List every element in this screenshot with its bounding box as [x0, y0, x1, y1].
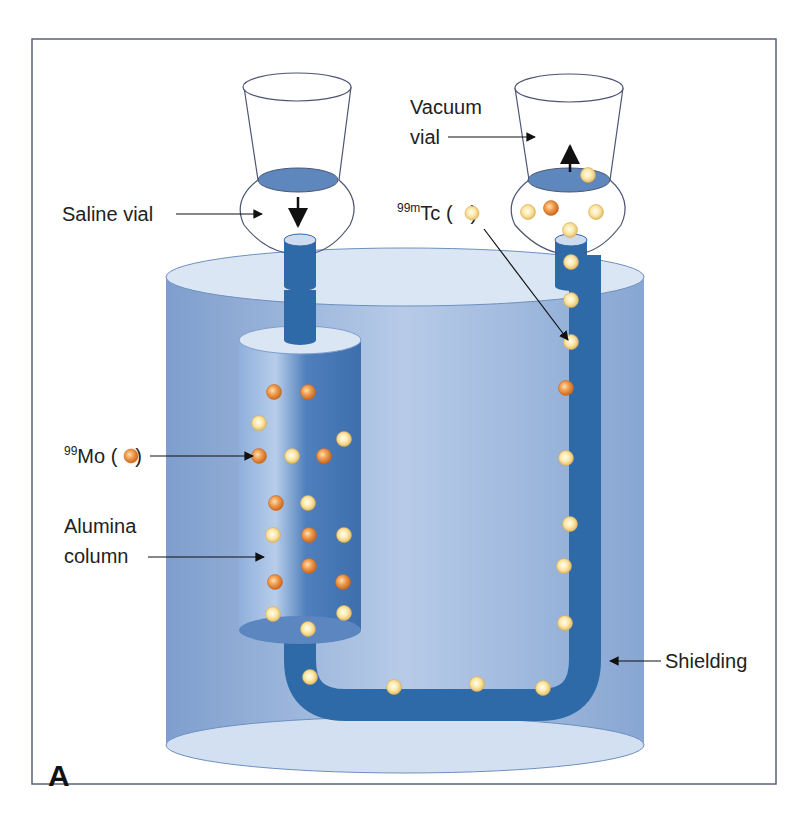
tc99m-particle: [337, 528, 352, 543]
tc99m-particle: [564, 255, 579, 270]
saline-needle-connector: [284, 234, 316, 291]
tc99m-particle: [285, 449, 300, 464]
tc99m-particle: [581, 168, 596, 183]
tc-legend-particle: [465, 206, 479, 220]
tc99m-particle: [563, 517, 578, 532]
tc99m-particle: [564, 293, 579, 308]
tc99m-particle: [337, 606, 352, 621]
mo99-particle: [252, 449, 267, 464]
mo99-particle: [301, 385, 316, 400]
mo99-particle: [336, 575, 351, 590]
svg-text:column: column: [64, 545, 128, 567]
svg-text:Saline vial: Saline vial: [62, 203, 153, 225]
mo99-particle: [302, 528, 317, 543]
tc99m-particle: [266, 607, 281, 622]
mo99-particle: [269, 496, 284, 511]
panel-label: A: [48, 759, 70, 792]
tc99m-particle: [558, 616, 573, 631]
svg-text:vial: vial: [410, 126, 440, 148]
mo99-particle: [267, 385, 282, 400]
tc99m-particle: [301, 496, 316, 511]
saline-liquid: [258, 168, 338, 192]
tc99m-particle: [301, 622, 316, 637]
mo99-particle: [268, 575, 283, 590]
tc99m-particle: [303, 670, 318, 685]
mo99-particle: [559, 381, 574, 396]
mo-legend-particle: [124, 449, 138, 463]
alumina-column: [239, 300, 361, 644]
svg-text:Shielding: Shielding: [665, 650, 747, 672]
shielding-bottom: [166, 717, 644, 773]
svg-text:Alumina: Alumina: [64, 515, 137, 537]
tc99m-particle: [563, 223, 578, 238]
tc99m-particle: [387, 680, 402, 695]
tc99m-particle: [557, 559, 572, 574]
tc99m-particle: [252, 416, 267, 431]
mo99-particle: [317, 449, 332, 464]
tc99m-particle: [266, 528, 281, 543]
technetium-generator-diagram: Saline vial Vacuum vial 99mTc () 99Mo ()…: [0, 0, 808, 829]
svg-text:Vacuum: Vacuum: [410, 96, 482, 118]
mo99-particle: [302, 559, 317, 574]
tc99m-particle: [536, 681, 551, 696]
tc99m-particle: [559, 451, 574, 466]
tc99m-particle: [521, 205, 536, 220]
tc99m-particle: [337, 432, 352, 447]
tc99m-particle: [470, 677, 485, 692]
tc99m-particle: [589, 205, 604, 220]
mo99-particle: [544, 201, 559, 216]
